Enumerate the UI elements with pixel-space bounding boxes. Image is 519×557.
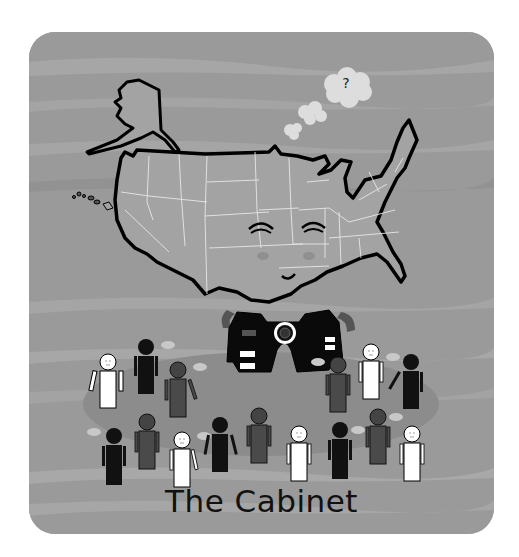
badge-left-2 [240, 363, 255, 369]
right-cheek [303, 252, 315, 260]
figure-white [287, 426, 311, 481]
flag-pin-icon [242, 330, 256, 336]
illustration-title: The Cabinet [29, 483, 494, 519]
illustration-card: ? The Cabinet [29, 32, 494, 534]
figure-dark-gray [247, 408, 271, 463]
thought-bubble-question-mark: ? [336, 75, 356, 91]
badge-right-2 [325, 345, 335, 350]
cabinet-illustration [29, 32, 494, 534]
badge-right-1 [325, 337, 335, 342]
figure-dark-gray [135, 414, 159, 469]
figure-white [400, 426, 424, 481]
badge-left-1 [240, 351, 255, 357]
left-cheek [257, 252, 269, 260]
